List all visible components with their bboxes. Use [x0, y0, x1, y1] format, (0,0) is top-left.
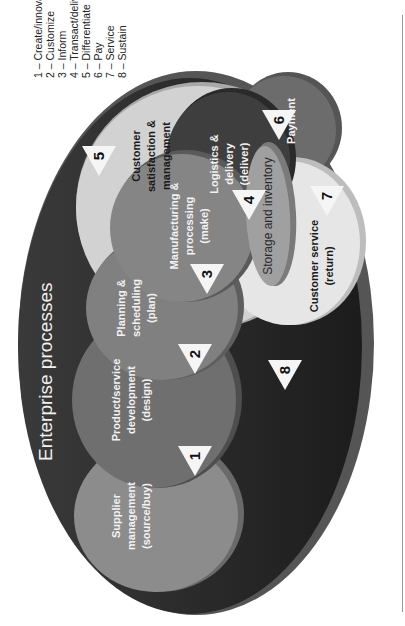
svg-text:(source/buy): (source/buy)	[140, 483, 152, 549]
legend-item: 6 – Pay	[92, 42, 104, 78]
legend-item: 2 – Customize	[44, 11, 56, 78]
svg-text:4: 4	[240, 195, 257, 204]
svg-text:processing: processing	[183, 197, 195, 256]
svg-text:Manufacturing &: Manufacturing &	[168, 183, 180, 270]
svg-text:8: 8	[276, 366, 293, 374]
svg-text:(plan): (plan)	[145, 293, 157, 323]
svg-text:(return): (return)	[323, 246, 335, 285]
svg-text:delivery: delivery	[223, 142, 235, 184]
legend-item: 8 – Sustain	[116, 25, 128, 78]
svg-text:management: management	[125, 482, 137, 550]
svg-text:2: 2	[186, 350, 203, 358]
svg-text:7: 7	[318, 192, 335, 200]
legend-item: 5 – Differentiate	[80, 4, 92, 78]
svg-text:satisfaction &: satisfaction &	[145, 120, 157, 192]
svg-text:(make): (make)	[198, 208, 210, 244]
svg-text:scheduling: scheduling	[130, 279, 142, 337]
svg-text:Planning &: Planning &	[115, 279, 127, 337]
diagram-title: Enterprise processes	[35, 283, 56, 461]
svg-text:(design): (design)	[140, 378, 152, 421]
svg-text:Customer: Customer	[130, 130, 142, 182]
svg-text:Supplier: Supplier	[110, 493, 122, 538]
logistics-label: Logistics & delivery (deliver)	[208, 134, 250, 193]
svg-text:Logistics &: Logistics &	[208, 134, 220, 193]
svg-text:1: 1	[186, 452, 203, 460]
storage-label: Storage and inventory	[261, 157, 275, 274]
customer-satisfaction-label: Customer satisfaction & management	[130, 120, 172, 192]
legend-item: 3 – Inform	[56, 30, 68, 78]
svg-text:Product/service: Product/service	[110, 359, 122, 442]
svg-text:Customer service: Customer service	[308, 220, 320, 312]
legend-item: 1 – Create/innovate	[32, 0, 44, 78]
svg-text:6: 6	[270, 116, 287, 124]
legend: 1 – Create/innovate 2 – Customize 3 – In…	[32, 0, 128, 78]
svg-text:(deliver): (deliver)	[238, 142, 250, 185]
legend-item: 7 – Service	[104, 25, 116, 78]
svg-text:Storage and inventory: Storage and inventory	[261, 157, 275, 274]
legend-item: 4 – Transact/deliver	[68, 0, 80, 78]
svg-text:management: management	[160, 122, 172, 190]
enterprise-processes-diagram: 1 – Create/innovate 2 – Customize 3 – In…	[0, 0, 405, 626]
svg-text:development: development	[125, 366, 137, 434]
svg-text:5: 5	[90, 152, 107, 160]
svg-text:3: 3	[198, 270, 215, 278]
